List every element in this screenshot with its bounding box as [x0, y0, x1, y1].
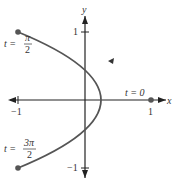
point-end [15, 165, 21, 171]
label-t-pi-over-2: t = π 2 [4, 32, 32, 55]
y-axis-label: y [81, 4, 87, 15]
y-tick-neg1: −1 [67, 162, 78, 173]
svg-text:2: 2 [27, 149, 32, 160]
svg-text:t =: t = [4, 38, 16, 49]
x-tick-neg1: −1 [11, 106, 22, 117]
x-tick-1: 1 [148, 106, 153, 117]
direction-arrow-icon [108, 58, 114, 64]
y-tick-1: 1 [73, 26, 78, 37]
point-t0 [148, 97, 154, 103]
y-axis [81, 16, 89, 178]
label-t-3pi-over-2: t = 3π 2 [4, 137, 36, 160]
svg-text:t =: t = [4, 143, 16, 154]
svg-text:3π: 3π [23, 137, 35, 148]
point-start [15, 29, 21, 35]
svg-text:2: 2 [25, 44, 30, 55]
x-axis-label: x [166, 95, 172, 106]
label-t0: t = 0 [125, 87, 145, 98]
parametric-plot: x y −1 1 1 −1 t = 0 t = π 2 t = 3π 2 [0, 0, 173, 181]
